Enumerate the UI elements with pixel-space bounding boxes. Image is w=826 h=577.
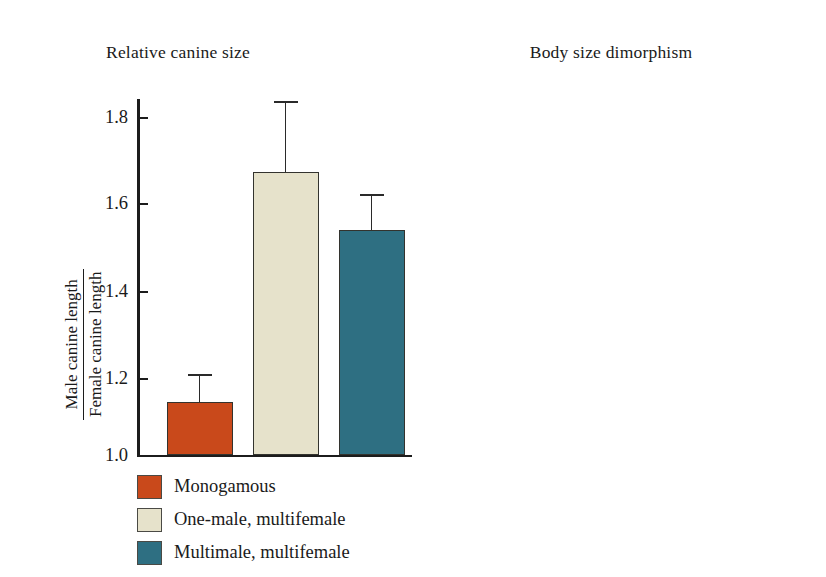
y-axis-label-denominator-left: Female canine length	[84, 269, 105, 420]
legend-item-multimale-multifemale: Multimale, multifemale	[137, 536, 350, 569]
chart-panel-body-size-dimorphism: Body size dimorphism Male body weight Fe…	[440, 0, 826, 577]
y-tick-1-6-left: 1.6	[139, 203, 148, 205]
y-tick-label-1-8-left: 1.8	[105, 108, 128, 127]
y-axis-label-left: Male canine length Female canine length	[62, 269, 105, 420]
error-bar-multimale-multifemale-left	[371, 195, 373, 230]
error-cap-monogamous-left	[188, 374, 212, 376]
legend-swatch-multimale-multifemale	[137, 541, 162, 565]
legend-label-multimale-multifemale: Multimale, multifemale	[174, 543, 350, 562]
y-tick-1-2-left: 1.2	[139, 378, 148, 380]
legend-swatch-one-male-multifemale	[137, 508, 162, 532]
y-tick-label-1-2-left: 1.2	[105, 369, 128, 388]
legend-label-one-male-multifemale: One-male, multifemale	[174, 510, 346, 529]
bar-multimale-multifemale-left	[339, 230, 405, 455]
chart-panel-relative-canine-size: Relative canine size Male canine length …	[0, 0, 440, 577]
legend-swatch-monogamous	[137, 475, 162, 499]
legend: Monogamous One-male, multifemale Multima…	[137, 470, 350, 569]
error-bar-monogamous-left	[199, 375, 201, 402]
y-tick-label-1-4-left: 1.4	[105, 282, 128, 301]
figure: Relative canine size Male canine length …	[0, 0, 826, 577]
y-tick-label-1-0-left: 1.0	[105, 446, 128, 465]
y-tick-1-4-left: 1.4	[139, 291, 148, 293]
y-tick-1-0-left: 1.0	[139, 455, 148, 457]
error-cap-multimale-multifemale-left	[360, 194, 384, 196]
legend-item-one-male-multifemale: One-male, multifemale	[137, 503, 350, 536]
y-tick-label-1-6-left: 1.6	[105, 194, 128, 213]
y-axis-label-numerator-left: Male canine length	[62, 276, 83, 412]
chart-title-right: Body size dimorphism	[418, 42, 804, 63]
error-bar-one-male-multifemale-left	[285, 102, 287, 172]
y-tick-1-8-left: 1.8	[139, 117, 148, 119]
y-axis-line-left	[137, 99, 140, 457]
legend-item-monogamous: Monogamous	[137, 470, 350, 503]
bar-monogamous-left	[167, 402, 233, 455]
bar-one-male-multifemale-left	[253, 172, 319, 455]
chart-title-left: Relative canine size	[0, 42, 398, 63]
plot-area-left: 1.8 1.6 1.4 1.2 1.0	[137, 99, 412, 457]
error-cap-one-male-multifemale-left	[274, 101, 298, 103]
legend-label-monogamous: Monogamous	[174, 477, 276, 496]
